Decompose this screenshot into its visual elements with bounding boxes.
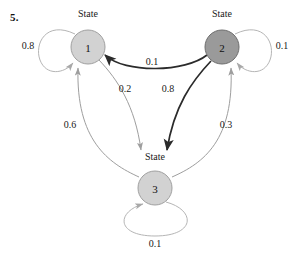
edge-weight-3-to-3: 0.1: [149, 238, 162, 249]
edge-1-to-1: [38, 30, 75, 72]
edge-weight-3-to-1: 0.6: [64, 119, 77, 130]
edge-2-to-3: [167, 61, 211, 150]
edge-2-to-2: [235, 30, 272, 72]
node-caption-state-3: State: [145, 151, 165, 162]
node-label-state-3: 3: [152, 183, 158, 195]
edge-1-to-3: [99, 60, 141, 150]
diagram-canvas: 5.: [0, 0, 297, 253]
edge-weight-2-to-2: 0.1: [276, 40, 289, 51]
edge-weight-2-to-1: 0.1: [146, 56, 159, 67]
edge-weight-3-to-2: 0.3: [220, 119, 233, 130]
edge-weight-2-to-3: 0.8: [162, 83, 175, 94]
edge-weight-1-to-3: 0.2: [119, 83, 132, 94]
edge-weight-1-to-1: 0.8: [22, 40, 35, 51]
node-label-state-2: 2: [219, 42, 225, 54]
node-caption-state-2: State: [212, 8, 232, 19]
state-transition-diagram: [0, 0, 297, 253]
node-label-state-1: 1: [85, 42, 91, 54]
edge-3-to-3: [124, 202, 187, 236]
node-caption-state-1: State: [78, 8, 98, 19]
